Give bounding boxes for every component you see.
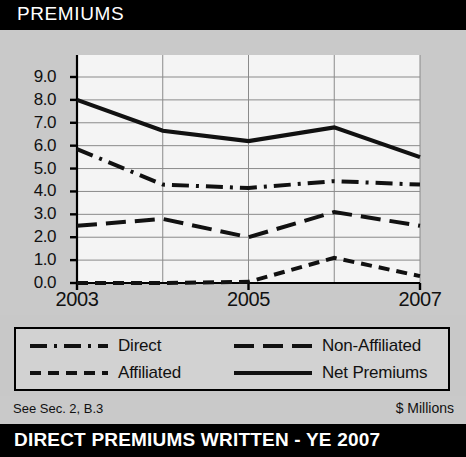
legend-line-sample	[232, 366, 314, 380]
chart-panel: 9.08.07.06.05.04.03.02.01.00.0 200320052…	[0, 30, 466, 315]
legend-item: Direct	[28, 333, 161, 359]
plot-area: 9.08.07.06.05.04.03.02.01.00.0 200320052…	[0, 30, 466, 315]
bottom-caption-text: DIRECT PREMIUMS WRITTEN - YE 2007	[14, 429, 380, 451]
title-bar: PREMIUMS	[0, 0, 466, 30]
legend-item: Non-Affiliated	[232, 333, 421, 359]
legend-label: Non-Affiliated	[322, 336, 421, 356]
legend-label: Direct	[118, 336, 161, 356]
chart-legend: DirectNon-AffiliatedAffiliatedNet Premiu…	[14, 327, 450, 391]
footer-units-label: $ Millions	[396, 400, 454, 416]
legend-item: Net Premiums	[232, 360, 427, 386]
footer-reference-note: See Sec. 2, B.3	[13, 401, 103, 416]
legend-label: Net Premiums	[322, 363, 427, 383]
footer-strip: See Sec. 2, B.3 $ Millions	[0, 396, 466, 424]
legend-label: Affiliated	[118, 363, 181, 383]
legend-line-sample	[28, 339, 110, 353]
page-title: PREMIUMS	[17, 3, 124, 25]
legend-line-sample	[28, 366, 110, 380]
legend-item: Affiliated	[28, 360, 181, 386]
chart-svg	[0, 30, 466, 315]
premiums-chart-page: PREMIUMS 9.08.07.06.05.04.03.02.01.00.0 …	[0, 0, 466, 457]
legend-line-sample	[232, 339, 314, 353]
bottom-caption-bar: DIRECT PREMIUMS WRITTEN - YE 2007	[0, 424, 466, 457]
